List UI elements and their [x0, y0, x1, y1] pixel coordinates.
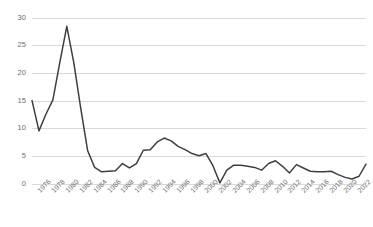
gridlines	[32, 18, 366, 184]
y-tick-label: 30	[4, 14, 26, 22]
y-tick-label: 0	[4, 180, 26, 188]
y-tick-label: 10	[4, 124, 26, 132]
y-tick-label: 20	[4, 69, 26, 77]
data-series	[32, 26, 366, 183]
y-tick-label: 5	[4, 152, 26, 160]
series-line	[32, 26, 366, 183]
y-tick-label: 25	[4, 41, 26, 49]
y-tick-label: 15	[4, 97, 26, 105]
